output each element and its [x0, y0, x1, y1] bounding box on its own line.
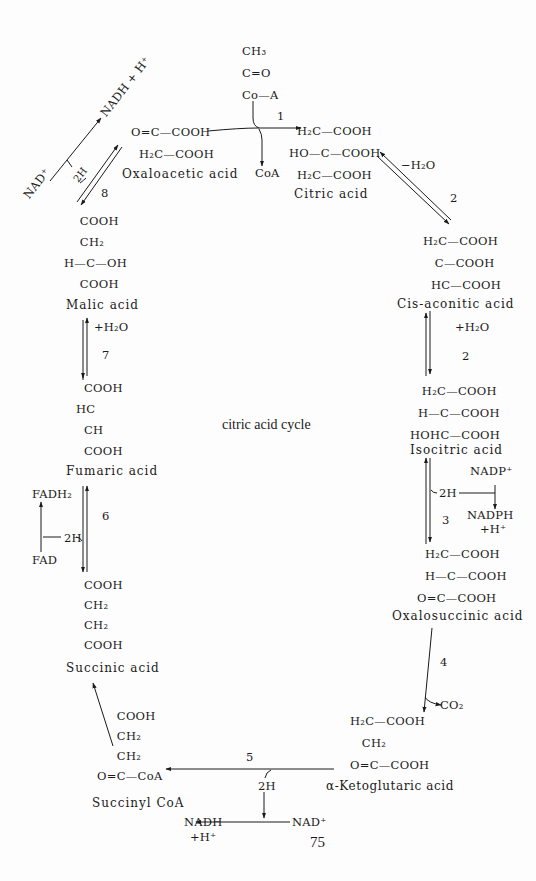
co2-label: CO₂: [440, 700, 463, 712]
succinic-2h-label: 2H: [64, 533, 82, 545]
ketoglutaric-2h-label: 2H: [258, 781, 276, 793]
alpha-ketoglutaric-acid-structure: H₂C—COOH CH₂O=C—COOH: [350, 710, 429, 776]
diagram-title: citric acid cycle: [222, 418, 311, 432]
step-8-label: 8: [101, 188, 108, 200]
oxalosuccinic-acid-label: Oxalosuccinic acid: [392, 610, 523, 622]
fumaric-acid-structure: COOHHC CH COOH: [76, 378, 123, 462]
step-4-label: 4: [440, 657, 447, 669]
oxaloacetic-acid-structure: O=C—COOHH₂C—COOH: [131, 121, 214, 165]
acetyl-coa-structure: CH₃C=OCo—A: [242, 40, 279, 106]
succinic-acid-label: Succinic acid: [66, 662, 160, 674]
oxaloacetic-acid-label: Oxaloacetic acid: [122, 168, 238, 180]
page-number: 75: [310, 835, 325, 850]
citric-acid-label: Citric acid: [294, 188, 368, 200]
fad-label: FAD: [32, 555, 57, 567]
citric-acid-structure: H₂C—COOHHO—C—COOH H₂C—COOH: [289, 120, 381, 186]
isocitric-2h-label: 2H: [439, 488, 457, 500]
isocitric-acid-structure: H₂C—COOH H—C—COOHHOHC—COOH: [410, 380, 500, 446]
step-2a-label: 2: [450, 193, 457, 205]
nadph-h-label: +H⁺: [480, 524, 506, 536]
succinyl-coa-structure: COOH CH₂ CH₂O=C—CoA: [97, 706, 163, 786]
oxalosuccinic-acid-structure: H₂C—COOH H—C—COOHO=C—COOH: [417, 543, 507, 609]
malic-acid-label: Malic acid: [66, 299, 139, 311]
succinic-acid-structure: COOHCH₂CH₂COOH: [84, 575, 123, 655]
nadp-plus-label: NADP⁺: [470, 466, 512, 478]
plus-water-left-label: +H₂O: [94, 322, 129, 334]
alpha-ketoglutaric-acid-label: α-Ketoglutaric acid: [326, 780, 454, 792]
step-6-label: 6: [102, 511, 109, 523]
succinyl-coa-label: Succinyl CoA: [92, 797, 184, 809]
minus-water-label: −H₂O: [401, 160, 436, 172]
step-1-label: 1: [277, 111, 284, 123]
fadh2-label: FADH₂: [32, 489, 72, 501]
step-3-label: 3: [442, 515, 449, 527]
plus-water-right-label: +H₂O: [455, 322, 490, 334]
step-7-label: 7: [102, 350, 109, 362]
nad-plus-bottom-label: NAD⁺: [292, 817, 326, 829]
cis-aconitic-acid-label: Cis-aconitic acid: [397, 298, 515, 310]
nadh-bottom-label: NADH: [184, 817, 222, 829]
coa-label: CoA: [255, 168, 280, 180]
step-2b-label: 2: [462, 351, 469, 363]
step-5-label: 5: [246, 752, 253, 764]
cis-aconitic-acid-structure: H₂C—COOH C—COOH HC—COOH: [423, 230, 501, 296]
fumaric-acid-label: Fumaric acid: [66, 465, 158, 477]
nadh-bottom-h-label: +H⁺: [190, 832, 216, 844]
malic-acid-structure: COOH CH₂H—C—OH COOH: [64, 211, 127, 295]
nadph-label: NADPH: [467, 510, 513, 522]
citric-acid-cycle-page: CH₃C=OCo—A O=C—COOHH₂C—COOH Oxaloacetic …: [0, 0, 536, 881]
isocitric-acid-label: Isocitric acid: [410, 444, 503, 456]
